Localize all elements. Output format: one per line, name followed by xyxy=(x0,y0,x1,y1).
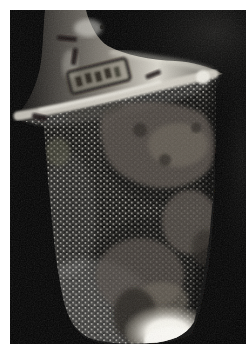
film-grain-overlay xyxy=(10,10,246,344)
implant-photograph xyxy=(10,10,246,344)
photo-canvas xyxy=(10,10,246,344)
page xyxy=(0,0,251,354)
